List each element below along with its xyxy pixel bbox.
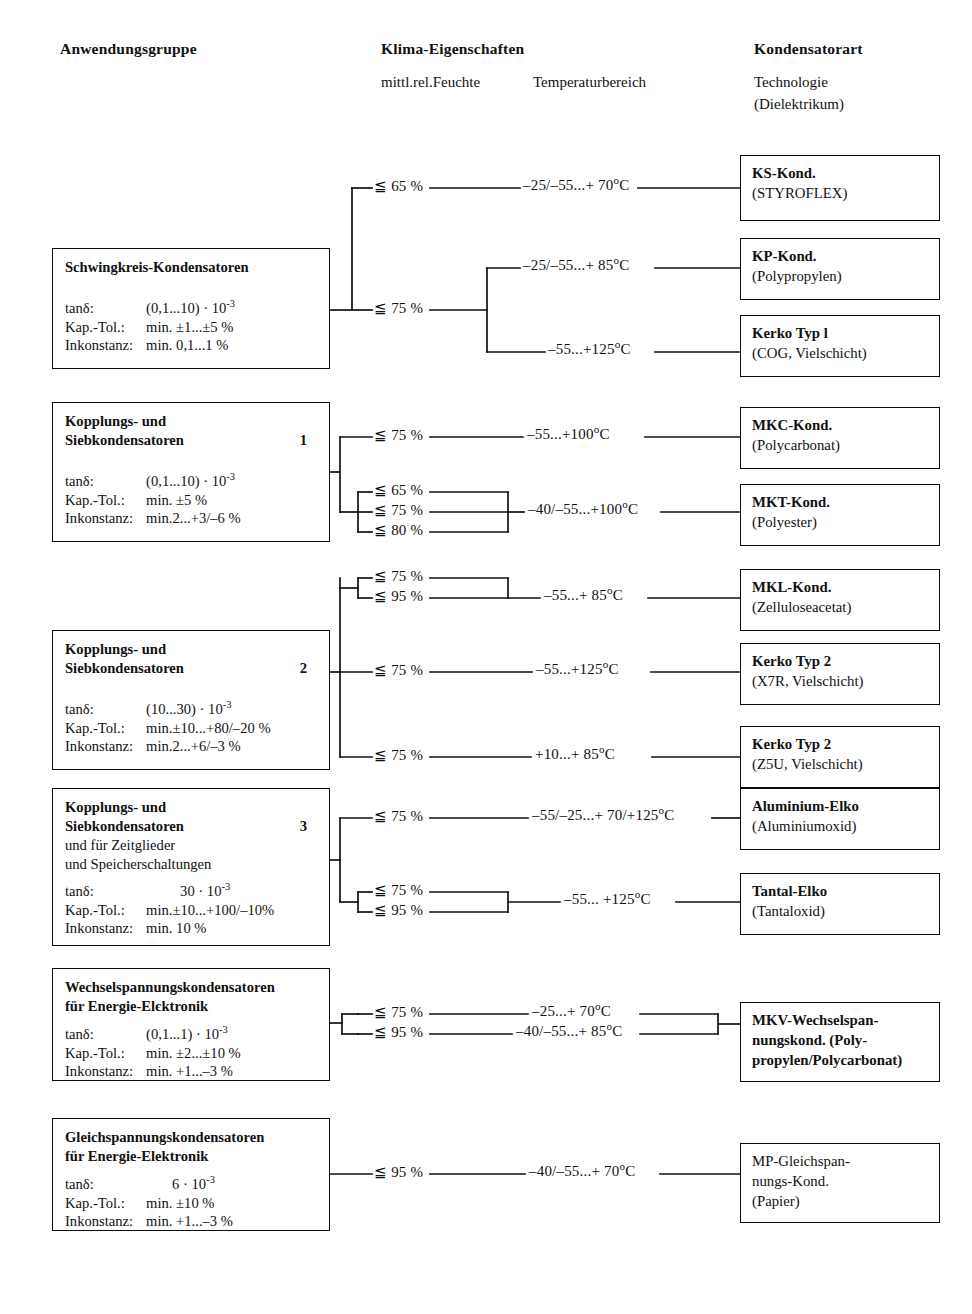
humidity-label-tantal-2: ≦ 95 %	[374, 901, 423, 919]
group-title-line2: Siebkondensatoren	[65, 659, 184, 678]
temperature-label-mkt: –40/–55...+100oC	[528, 501, 638, 518]
group-title-line2: Siebkondensatoren	[65, 431, 184, 450]
column-heading-anwendungsgruppe: Anwendungsgruppe	[60, 40, 197, 58]
spec-table: tanδ: 6 · 10-3 Kap.-Tol.: min. ±10 % Ink…	[65, 1175, 233, 1231]
spec-value-kap: min. ±2...±10 %	[146, 1044, 241, 1063]
humidity-label-mkt-3: ≦ 80 %	[374, 521, 423, 539]
tech-box-mp[interactable]: MP-Gleichspan- nungs-Kond. (Papier)	[740, 1143, 940, 1223]
group-title-line1: Kopplungs- und	[65, 640, 329, 659]
tech-line2: (STYROFLEX)	[752, 183, 939, 203]
tech-line2: (COG, Vielschicht)	[752, 343, 939, 363]
spec-value-tan: (0,1...1) · 10-3	[146, 1025, 241, 1044]
spec-value-ink: min.2...+3/–6 %	[146, 509, 241, 528]
spec-row-kap: Kap.-Tol.: min. ±5 %	[65, 491, 241, 510]
humidity-label-tantal-1: ≦ 75 %	[374, 881, 423, 899]
group-box-gleichspannung[interactable]: Gleichspannungskondensatoren für Energie…	[52, 1118, 330, 1231]
tech-box-mkc[interactable]: MKC-Kond. (Polycarbonat)	[740, 407, 940, 469]
tech-line1: Kerko Typ l	[752, 323, 939, 343]
spec-row-tan: tanδ: 6 · 10-3	[65, 1175, 233, 1194]
humidity-label-alu: ≦ 75 %	[374, 807, 423, 825]
spec-key-ink: Inkonstanz:	[65, 336, 146, 355]
spec-row-ink: Inkonstanz: min. +1...–3 %	[65, 1062, 241, 1081]
tech-box-ks[interactable]: KS-Kond. (STYROFLEX)	[740, 155, 940, 221]
tech-box-mkl[interactable]: MKL-Kond. (Zelluloseacetat)	[740, 569, 940, 631]
group-index: 2	[300, 659, 307, 678]
spec-row-kap: Kap.-Tol.: min.±10...+80/–20 %	[65, 719, 271, 738]
spec-key-tan: tanδ:	[65, 1025, 146, 1044]
column-heading-kondensatorart: Kondensatorart	[754, 40, 863, 58]
tech-line1: Kerko Typ 2	[752, 734, 939, 754]
column-subheading-feuchte: mittl.rel.Feuchte	[381, 74, 480, 91]
diagram-page: Anwendungsgruppe Klima-Eigenschaften mit…	[0, 0, 972, 1314]
spec-value-tan: 30 · 10-3	[146, 882, 274, 901]
spec-value-ink: min. 0,1...1 %	[146, 336, 235, 355]
spec-key-ink: Inkonstanz:	[65, 919, 146, 938]
tech-box-kp[interactable]: KP-Kond. (Polypropylen)	[740, 238, 940, 300]
group-title-line1: Gleichspannungskondensatoren	[65, 1128, 329, 1147]
spec-table: tanδ: 30 · 10-3 Kap.-Tol.: min.±10...+10…	[65, 882, 274, 938]
group-title-line1: Kopplungs- und	[65, 798, 329, 817]
group-box-kopplung-1[interactable]: Kopplungs- und Siebkondensatoren 1 tanδ:…	[52, 402, 330, 542]
humidity-label-mkl-2: ≦ 95 %	[374, 587, 423, 605]
group-index: 3	[300, 817, 307, 836]
spec-row-tan: tanδ: (0,1...1) · 10-3	[65, 1025, 241, 1044]
group-box-schwingkreis[interactable]: Schwingkreis-Kondensatoren tanδ: (0,1...…	[52, 248, 330, 369]
group-box-wechselspannung[interactable]: Wechselspannungskondensatoren für Energi…	[52, 968, 330, 1081]
humidity-label-mp: ≦ 95 %	[374, 1163, 423, 1181]
temperature-label-kerko2x: –55...+125oC	[536, 661, 619, 678]
spec-table: tanδ: (0,1...1) · 10-3 Kap.-Tol.: min. ±…	[65, 1025, 241, 1081]
humidity-label-mkt-2: ≦ 75 %	[374, 501, 423, 519]
tech-line1: KP-Kond.	[752, 246, 939, 266]
tech-line1: MKL-Kond.	[752, 577, 939, 597]
group-box-kopplung-2[interactable]: Kopplungs- und Siebkondensatoren 2 tanδ:…	[52, 630, 330, 770]
tech-box-mkt[interactable]: MKT-Kond. (Polyester)	[740, 484, 940, 546]
tech-line2: (Polyester)	[752, 512, 939, 532]
group-title-line2: für Energie-Elєktronik	[65, 997, 329, 1016]
spec-row-tan: tanδ: (0,1...10) · 10-3	[65, 472, 241, 491]
spec-table: tanδ: (0,1...10) · 10-3 Kap.-Tol.: min. …	[65, 299, 235, 355]
tech-box-mkv[interactable]: MKV-Wechselspan- nungskond. (Poly- propy…	[740, 1002, 940, 1082]
tech-box-kerko1[interactable]: Kerko Typ l (COG, Vielschicht)	[740, 315, 940, 377]
humidity-label-ks: ≦ 65 %	[374, 177, 423, 195]
spec-key-ink: Inkonstanz:	[65, 1212, 146, 1231]
tech-box-kerko2z[interactable]: Kerko Typ 2 (Z5U, Vielschicht)	[740, 726, 940, 788]
tech-line1: Aluminium-Elko	[752, 796, 939, 816]
spec-row-ink: Inkonstanz: min. 10 %	[65, 919, 274, 938]
tech-line1: Kerko Typ 2	[752, 651, 939, 671]
tech-line3: (Papier)	[752, 1191, 939, 1211]
tech-box-alu[interactable]: Aluminium-Elko (Aluminiumoxid)	[740, 788, 940, 850]
tech-box-tantal[interactable]: Tantal-Elko (Tantaloxid)	[740, 873, 940, 935]
spec-value-ink: min. +1...–3 %	[146, 1062, 241, 1081]
tech-line2: (Zelluloseacetat)	[752, 597, 939, 617]
group-extra-line1: und für Zeitglieder	[65, 836, 329, 855]
tech-line1: MKT-Kond.	[752, 492, 939, 512]
tech-line2: (Aluminiumoxid)	[752, 816, 939, 836]
tech-box-kerko2x[interactable]: Kerko Typ 2 (X7R, Vielschicht)	[740, 643, 940, 705]
column-subheading-dielektrikum: (Dielektrikum)	[754, 96, 844, 113]
column-subheading-temperaturbereich: Temperaturbereich	[533, 74, 646, 91]
humidity-label-kerko2z: ≦ 75 %	[374, 746, 423, 764]
group-title-line2: für Energie-Elektronik	[65, 1147, 329, 1166]
temperature-label-mkv-2: –40/–55...+ 85oC	[516, 1023, 622, 1040]
spec-value-ink: min. +1...–3 %	[146, 1212, 233, 1231]
spec-value-kap: min. ±10 %	[146, 1194, 233, 1213]
tech-line1: MP-Gleichspan-	[752, 1151, 939, 1171]
spec-row-kap: Kap.-Tol.: min. ±1...±5 %	[65, 318, 235, 337]
temperature-label-alu: –55/–25...+ 70/+125oC	[532, 807, 674, 824]
spec-key-kap: Kap.-Tol.:	[65, 491, 146, 510]
group-box-kopplung-3[interactable]: Kopplungs- und Siebkondensatoren 3 und f…	[52, 788, 330, 946]
spec-key-tan: tanδ:	[65, 299, 146, 318]
spec-key-tan: tanδ:	[65, 472, 146, 491]
tech-line3: propylen/Polycarbonat)	[752, 1050, 939, 1070]
group-index: 1	[300, 431, 307, 450]
spec-value-ink: min.2...+6/–3 %	[146, 737, 270, 756]
spec-value-kap: min.±10...+100/–10%	[146, 901, 274, 920]
spec-value-kap: min. ±1...±5 %	[146, 318, 235, 337]
spec-key-ink: Inkonstanz:	[65, 509, 146, 528]
tech-line2: (Z5U, Vielschicht)	[752, 754, 939, 774]
tech-line1: KS-Kond.	[752, 163, 939, 183]
tech-line2: (Polycarbonat)	[752, 435, 939, 455]
humidity-label-kerko2x: ≦ 75 %	[374, 661, 423, 679]
spec-value-tan: (0,1...10) · 10-3	[146, 472, 241, 491]
humidity-label-mkv-1: ≦ 75 %	[374, 1003, 423, 1021]
